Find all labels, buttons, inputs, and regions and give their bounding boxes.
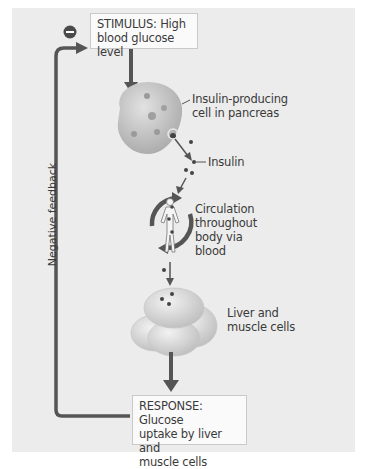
stimulus-box: STIMULUS: High blood glucose level <box>90 13 198 49</box>
response-line-1: RESPONSE: Glucose <box>139 399 240 427</box>
response-box: RESPONSE: Glucose uptake by liver and mu… <box>132 395 247 445</box>
response-line-2: uptake by liver and <box>139 427 240 455</box>
circulation-label: Circulation throughout body via blood <box>195 202 257 258</box>
to-liver-arrow <box>162 262 177 292</box>
circulation-label-line-1: Circulation <box>195 202 257 216</box>
circulation-label-line-3: body via <box>195 230 257 244</box>
pancreas-label-line-1: Insulin-producing <box>192 92 288 106</box>
minus-circle-icon <box>64 26 77 39</box>
human-body-circulation-icon <box>152 192 191 254</box>
insulin-label: Insulin <box>208 155 244 169</box>
pancreas-label: Insulin-producing cell in pancreas <box>192 92 288 120</box>
pancreas-label-line-2: cell in pancreas <box>192 106 288 120</box>
to-circulation-arrow <box>176 178 186 194</box>
liver-muscle-cells-icon <box>131 288 217 356</box>
diagram-graphics <box>12 8 355 452</box>
stimulus-line-2: blood glucose level <box>97 31 191 59</box>
response-down-arrow <box>163 352 179 392</box>
response-line-3: muscle cells <box>139 455 240 469</box>
liver-muscle-label-line-2: muscle cells <box>227 320 295 334</box>
liver-muscle-label: Liver and muscle cells <box>227 306 295 334</box>
negative-feedback-label: Negative feedback <box>46 155 59 275</box>
circulation-label-line-4: blood <box>195 244 257 258</box>
diagram-panel: STIMULUS: High blood glucose level Insul… <box>12 8 355 452</box>
negative-feedback-arrow <box>56 42 130 416</box>
circulation-label-line-2: throughout <box>195 216 257 230</box>
pancreas-cell-icon <box>118 82 190 154</box>
liver-muscle-label-line-1: Liver and <box>227 306 295 320</box>
stimulus-line-1: STIMULUS: High <box>97 17 191 31</box>
